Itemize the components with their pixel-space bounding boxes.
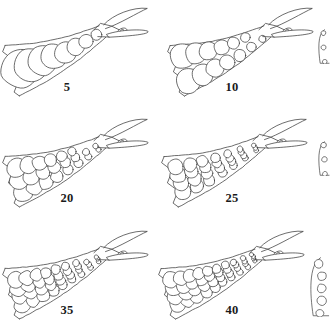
specimen-drawing (163, 113, 313, 199)
cell-outline (221, 261, 229, 269)
panel-label-20: 20 (47, 191, 87, 206)
panel-label-25: 25 (212, 191, 252, 206)
cell-outline (73, 259, 80, 266)
cell-outline (317, 284, 326, 293)
lower-ramus (107, 30, 148, 37)
cell-outline (93, 143, 98, 149)
cell-outline (322, 171, 327, 176)
cell-outline (230, 259, 236, 265)
cell-outline (317, 296, 326, 305)
cell-outline (202, 266, 212, 276)
cell-outline (212, 264, 221, 273)
cell-outline (314, 260, 322, 269)
cell-outline (84, 259, 90, 265)
edge-fragment-row1 (316, 28, 330, 64)
cell-outline (82, 148, 89, 155)
figure-plate: 51020253540 (0, 0, 330, 331)
cell-outline (94, 255, 98, 259)
panel-label-40: 40 (212, 303, 252, 318)
cell-outline (321, 45, 326, 50)
cell-outline (51, 265, 60, 275)
figure-panel-10 (169, 2, 319, 88)
fragment-drawing (306, 255, 330, 317)
cell-outline (249, 253, 253, 257)
panel-label-35: 35 (47, 303, 87, 318)
specimen-drawing (4, 113, 154, 199)
fragment-drawing (316, 140, 330, 176)
lower-ramus (263, 253, 304, 260)
figure-panel-20 (4, 113, 154, 199)
lower-ramus (107, 141, 148, 148)
lower-ramus (272, 30, 313, 37)
cell-outline (318, 272, 327, 280)
lower-ramus (266, 141, 307, 148)
cell-outline (247, 42, 257, 51)
edge-fragment-row2 (316, 140, 330, 176)
figure-panel-25 (163, 113, 313, 199)
figure-panel-5 (4, 2, 154, 88)
fragment-drawing (316, 28, 330, 64)
cell-outline (196, 155, 208, 167)
cell-outline (44, 154, 56, 167)
cell-outline (237, 146, 243, 152)
specimen-drawing (4, 225, 154, 311)
lower-ramus (107, 253, 148, 260)
cell-outline (79, 34, 93, 48)
cell-outline (240, 256, 246, 261)
cell-outline (91, 29, 102, 40)
cell-outline (220, 55, 235, 70)
specimen-drawing (169, 2, 319, 88)
specimen-drawing (160, 225, 310, 311)
cell-outline (41, 268, 52, 279)
cell-outline (224, 150, 232, 158)
figure-panel-35 (4, 225, 154, 311)
cell-outline (321, 31, 326, 36)
panel-label-10: 10 (212, 80, 252, 95)
cell-outline (251, 143, 255, 147)
edge-fragment-row3 (306, 255, 330, 317)
cell-outline (214, 40, 229, 55)
cell-outline (68, 147, 76, 156)
cell-outline (241, 33, 251, 42)
cell-outline (322, 60, 327, 65)
cell-outline (321, 142, 327, 147)
cell-outline (227, 37, 239, 49)
cell-outline (211, 153, 221, 162)
cell-outline (61, 262, 69, 270)
cell-outline (322, 157, 327, 162)
cell-outline (168, 159, 183, 175)
panel-label-5: 5 (47, 80, 87, 95)
cell-outline (316, 310, 324, 317)
figure-panel-40 (160, 225, 310, 311)
cell-outline (234, 49, 246, 61)
specimen-drawing (4, 2, 154, 88)
